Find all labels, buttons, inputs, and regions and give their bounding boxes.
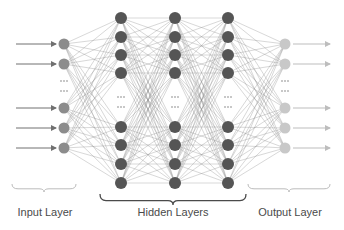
hidden-1-node xyxy=(115,158,127,170)
hidden-3-node xyxy=(222,139,234,151)
output-node xyxy=(280,143,291,154)
input-node xyxy=(59,123,70,134)
connection-edge xyxy=(64,64,121,183)
input-node xyxy=(59,59,70,70)
ellipsis-dot xyxy=(120,96,121,97)
connection-edge xyxy=(64,37,121,108)
ellipsis-dot xyxy=(284,80,285,81)
ellipsis-dot xyxy=(117,96,118,97)
connection-edge xyxy=(228,55,285,148)
hidden-3-node xyxy=(222,49,234,61)
ellipsis-dot xyxy=(281,80,282,81)
output-node xyxy=(280,103,291,114)
ellipsis-dot xyxy=(174,106,175,107)
ellipsis-dot xyxy=(63,90,64,91)
ellipsis-dot xyxy=(60,90,61,91)
hidden-3-node xyxy=(222,158,234,170)
hidden-3-node xyxy=(222,12,234,24)
connection-edge xyxy=(228,37,285,44)
connection-edge xyxy=(64,18,121,128)
connection-edge xyxy=(228,127,285,128)
ellipsis-dot xyxy=(171,96,172,97)
hidden-1-node xyxy=(115,121,127,133)
input-layer-label: Input Layer xyxy=(17,206,72,218)
ellipsis-dot xyxy=(63,80,64,81)
hidden-1-node xyxy=(115,139,127,151)
ellipsis-dot xyxy=(120,106,121,107)
hidden-1-node xyxy=(115,49,127,61)
ellipsis-dots xyxy=(60,80,288,107)
hidden-3-node xyxy=(222,177,234,189)
hidden-3-node xyxy=(222,31,234,43)
hidden-3-node xyxy=(222,121,234,133)
hidden-2-node xyxy=(169,121,181,133)
ellipsis-dot xyxy=(171,106,172,107)
connection-edge xyxy=(228,18,285,44)
connection-edge xyxy=(64,127,121,128)
connection-edge xyxy=(64,18,121,148)
ellipsis-dot xyxy=(227,106,228,107)
hidden-2-node xyxy=(169,177,181,189)
ellipsis-dot xyxy=(287,90,288,91)
ellipsis-dot xyxy=(123,106,124,107)
ellipsis-dot xyxy=(227,96,228,97)
connection-edge xyxy=(64,37,121,148)
hidden-2-node xyxy=(169,31,181,43)
ellipsis-dot xyxy=(281,90,282,91)
connection-edge xyxy=(64,55,121,148)
hidden-3-node xyxy=(222,67,234,79)
connection-edge xyxy=(64,18,121,44)
hidden-2-node xyxy=(169,49,181,61)
output-node xyxy=(280,123,291,134)
connection-edge xyxy=(228,37,285,148)
ellipsis-dot xyxy=(177,96,178,97)
ellipsis-dot xyxy=(60,80,61,81)
connection-edge xyxy=(228,44,285,55)
hidden-brace-icon xyxy=(100,194,246,205)
output-node xyxy=(280,59,291,70)
hidden-2-node xyxy=(169,158,181,170)
connection-edge xyxy=(228,18,285,148)
input-node xyxy=(59,103,70,114)
hidden-1-node xyxy=(115,31,127,43)
ellipsis-dot xyxy=(284,90,285,91)
connection-edge xyxy=(64,127,121,148)
neural-network-diagram xyxy=(0,0,344,230)
output-layer-label: Output Layer xyxy=(258,206,322,218)
connection-edge xyxy=(64,55,121,128)
ellipsis-dot xyxy=(177,106,178,107)
connection-edge xyxy=(228,64,285,183)
hidden-1-node xyxy=(115,12,127,24)
connection-edge xyxy=(228,73,285,148)
ellipsis-dot xyxy=(123,96,124,97)
output-node xyxy=(280,39,291,50)
output-brace-icon xyxy=(248,184,330,192)
hidden-2-node xyxy=(169,67,181,79)
connection-edge xyxy=(64,73,121,148)
ellipsis-dot xyxy=(66,90,67,91)
connection-edge xyxy=(64,148,121,164)
ellipsis-dot xyxy=(287,80,288,81)
ellipsis-dot xyxy=(66,80,67,81)
hidden-2-node xyxy=(169,139,181,151)
connection-edge xyxy=(228,55,285,128)
connection-edge xyxy=(228,73,285,108)
connection-edge xyxy=(64,73,121,108)
ellipsis-dot xyxy=(174,96,175,97)
ellipsis-dot xyxy=(224,106,225,107)
ellipsis-dot xyxy=(230,96,231,97)
hidden-2-node xyxy=(169,12,181,24)
ellipsis-dot xyxy=(230,106,231,107)
ellipsis-dot xyxy=(117,106,118,107)
connection-edge xyxy=(228,18,285,128)
connection-edge xyxy=(64,64,121,145)
hidden-1-node xyxy=(115,67,127,79)
input-node xyxy=(59,39,70,50)
ellipsis-dot xyxy=(224,96,225,97)
connection-edge xyxy=(228,37,285,108)
hidden-layers-label: Hidden Layers xyxy=(138,206,209,218)
input-node xyxy=(59,143,70,154)
hidden-1-node xyxy=(115,177,127,189)
input-brace-icon xyxy=(12,184,76,192)
